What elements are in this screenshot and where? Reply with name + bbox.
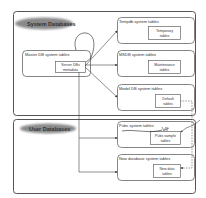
pubs-sample-tables-line2: tables: [161, 139, 171, 143]
maintenance-tables-line1: Maintenance: [154, 63, 175, 67]
temporary-tables-line2: tables: [160, 34, 170, 38]
server-dbs-metadata-line1: Server DBs: [61, 63, 80, 67]
database-architecture-diagram: System Databases User Databases Master D…: [0, 0, 206, 198]
pubs-node: Pubs system tables Pubs sample tables: [118, 120, 201, 148]
new-database-title: New database system tables: [119, 156, 170, 161]
server-dbs-metadata-line2: metadata: [63, 68, 78, 72]
pubs-title: Pubs system tables: [119, 123, 154, 128]
default-tables-line1: Default: [162, 97, 173, 101]
tempdb-title: Tempdb system tables: [119, 19, 159, 24]
maintenance-tables-line2: tables: [160, 68, 170, 72]
new-database-node: New database system tables New data tabl…: [118, 155, 195, 181]
master-db-title: Master DB system tables: [25, 52, 69, 57]
msdb-node: MSDB system tables Maintenance tables: [118, 51, 195, 77]
master-db-node: Master DB system tables Server DBs metad…: [23, 51, 91, 77]
new-data-tables-line2: tables: [162, 172, 172, 176]
user-databases-label: User Databases: [29, 126, 70, 132]
model-db-node: Model DB system tables Default tables: [118, 85, 195, 111]
pubs-sample-tables-line1: Pubs sample: [155, 134, 176, 138]
msdb-title: MSDB system tables: [119, 52, 156, 57]
new-data-tables-line1: New data: [159, 167, 174, 171]
temporary-tables-line1: Temporary: [156, 29, 173, 33]
model-db-title: Model DB system tables: [119, 86, 162, 91]
default-tables-line2: tables: [163, 102, 173, 106]
system-databases-label: System Databases: [27, 21, 76, 27]
tempdb-node: Tempdb system tables Temporary tables: [118, 18, 195, 44]
